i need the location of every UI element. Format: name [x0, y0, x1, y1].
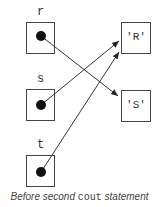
arrow-r-to-S	[41, 36, 118, 96]
figure-caption: Before second cout statement	[0, 191, 159, 203]
pointer-dot-r	[36, 31, 46, 41]
arrow-t-to-R	[41, 52, 119, 172]
caption-before: Before second	[11, 191, 78, 202]
pointer-dot-s	[36, 100, 46, 110]
caption-after: statement	[102, 191, 149, 202]
pointer-dot-t	[36, 167, 46, 177]
pointer-arrows	[0, 0, 159, 207]
arrow-s-to-R	[41, 41, 119, 105]
caption-code: cout	[78, 192, 102, 203]
